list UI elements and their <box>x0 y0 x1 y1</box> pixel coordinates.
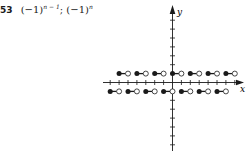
step-segment <box>108 89 122 94</box>
closed-endpoint-dot <box>170 71 175 76</box>
axes <box>103 5 244 151</box>
open-endpoint-circle <box>223 89 228 94</box>
open-endpoint-circle <box>215 71 220 76</box>
step-segment <box>206 71 220 76</box>
step-segment <box>143 89 157 94</box>
open-endpoint-circle <box>188 89 193 94</box>
step-segment <box>223 71 237 76</box>
closed-endpoint-dot <box>117 71 122 76</box>
closed-endpoint-dot <box>126 89 131 94</box>
open-endpoint-circle <box>179 71 184 76</box>
step-segment <box>170 71 184 76</box>
step-segment <box>117 71 131 76</box>
step-segment <box>179 89 193 94</box>
y-axis-arrow-icon <box>170 5 176 14</box>
closed-endpoint-dot <box>143 89 148 94</box>
step-segment <box>134 71 148 76</box>
step-segment <box>126 89 140 94</box>
open-endpoint-circle <box>232 71 237 76</box>
closed-endpoint-dot <box>223 71 228 76</box>
step-segment <box>161 89 175 94</box>
x-axis-label: x <box>240 84 245 94</box>
open-endpoint-circle <box>143 71 148 76</box>
y-axis-label: y <box>176 7 183 17</box>
open-endpoint-circle <box>152 89 157 94</box>
step-function-plot: x y <box>0 0 246 153</box>
closed-endpoint-dot <box>197 89 202 94</box>
closed-endpoint-dot <box>134 71 139 76</box>
closed-endpoint-dot <box>215 89 220 94</box>
closed-endpoint-dot <box>188 71 193 76</box>
closed-endpoint-dot <box>179 89 184 94</box>
closed-endpoint-dot <box>206 71 211 76</box>
open-endpoint-circle <box>117 89 122 94</box>
step-segment <box>197 89 211 94</box>
step-segment <box>188 71 202 76</box>
open-endpoint-circle <box>126 71 131 76</box>
open-endpoint-circle <box>134 89 139 94</box>
open-endpoint-circle <box>206 89 211 94</box>
open-endpoint-circle <box>197 71 202 76</box>
open-endpoint-circle <box>161 71 166 76</box>
step-segment <box>152 71 166 76</box>
step-segment <box>215 89 229 94</box>
closed-endpoint-dot <box>108 89 113 94</box>
open-endpoint-circle <box>170 89 175 94</box>
closed-endpoint-dot <box>152 71 157 76</box>
closed-endpoint-dot <box>161 89 166 94</box>
